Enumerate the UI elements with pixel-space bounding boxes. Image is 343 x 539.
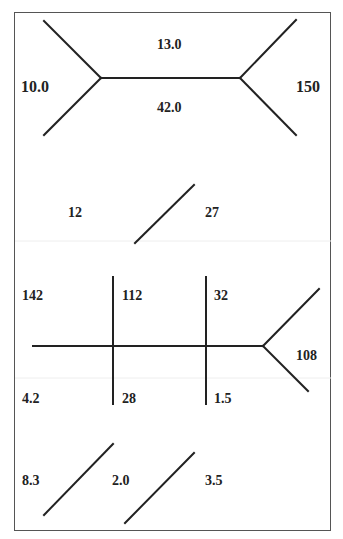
cross-tree (33, 277, 319, 404)
cross-right-upper-arm (263, 289, 319, 346)
parallel-left-label: 8.3 (22, 474, 40, 488)
cross-upper-right-label: 32 (214, 289, 228, 303)
parallel-middle-label: 2.0 (112, 474, 130, 488)
cross-upper-middle-label: 112 (122, 289, 142, 303)
top-right-lower-arm (240, 78, 296, 135)
single-edge (135, 185, 194, 243)
top-left-label: 10.0 (21, 79, 49, 95)
top-left-lower-arm (44, 78, 101, 135)
parallel-edge-right (125, 453, 194, 523)
top-right-upper-arm (240, 20, 296, 78)
single-edge-left-label: 12 (68, 206, 82, 220)
single-edge-right-label: 27 (205, 206, 219, 220)
top-right-label: 150 (296, 79, 320, 95)
cross-lower-right-label: 1.5 (214, 392, 232, 406)
parallel-right-label: 3.5 (205, 474, 223, 488)
cross-lower-left-label: 4.2 (22, 392, 40, 406)
top-left-upper-arm (44, 21, 101, 78)
cross-branch-right-label: 108 (296, 349, 317, 363)
single-diagonal-edge (135, 185, 194, 243)
cross-lower-middle-label: 28 (122, 392, 136, 406)
top-upper-label: 13.0 (157, 38, 182, 52)
tree-diagram-svg (0, 0, 343, 539)
parallel-edge-left (44, 444, 113, 515)
top-lower-label: 42.0 (157, 101, 182, 115)
cross-upper-left-label: 142 (22, 289, 43, 303)
